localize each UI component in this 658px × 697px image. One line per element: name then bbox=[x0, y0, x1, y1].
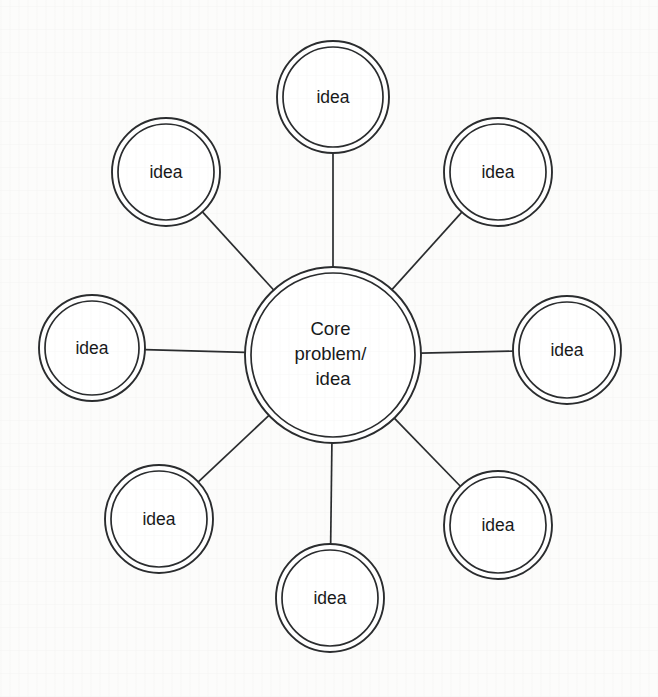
satellite-node-top-right[interactable]: idea bbox=[444, 118, 552, 226]
connector-line-right bbox=[421, 351, 513, 353]
connector-line-top-right bbox=[392, 212, 462, 290]
satellite-node-label: idea bbox=[481, 162, 514, 182]
satellite-node-right[interactable]: idea bbox=[513, 296, 621, 404]
satellite-node-label: idea bbox=[313, 588, 346, 608]
satellite-node-label: idea bbox=[149, 162, 182, 182]
connector-line-bottom-left bbox=[198, 415, 269, 482]
satellite-node-label: idea bbox=[142, 509, 175, 529]
mind-map-diagram: ideaideaideaideaideaideaideaidea Core pr… bbox=[0, 0, 658, 697]
satellite-node-bottom[interactable]: idea bbox=[276, 544, 384, 652]
diagram-canvas: ideaideaideaideaideaideaideaidea Core pr… bbox=[0, 0, 658, 697]
connector-line-bottom-right bbox=[394, 418, 460, 486]
satellite-node-label: idea bbox=[75, 338, 108, 358]
center-label-line-1: Core bbox=[310, 318, 350, 339]
center-node-group[interactable]: Core problem/ idea bbox=[245, 267, 421, 443]
center-label-line-3: idea bbox=[316, 368, 352, 389]
connector-line-bottom bbox=[331, 443, 332, 544]
satellite-node-top[interactable]: idea bbox=[277, 41, 389, 153]
satellite-node-top-left[interactable]: idea bbox=[112, 118, 220, 226]
satellite-node-bottom-right[interactable]: idea bbox=[444, 471, 552, 579]
connector-line-top-left bbox=[202, 212, 273, 290]
satellite-node-label: idea bbox=[550, 340, 583, 360]
satellite-node-label: idea bbox=[316, 87, 349, 107]
satellite-node-left[interactable]: idea bbox=[39, 295, 145, 401]
satellite-node-label: idea bbox=[481, 515, 514, 535]
satellite-node-bottom-left[interactable]: idea bbox=[105, 465, 213, 573]
connector-line-left bbox=[145, 350, 245, 353]
center-label-line-2: problem/ bbox=[294, 343, 367, 364]
